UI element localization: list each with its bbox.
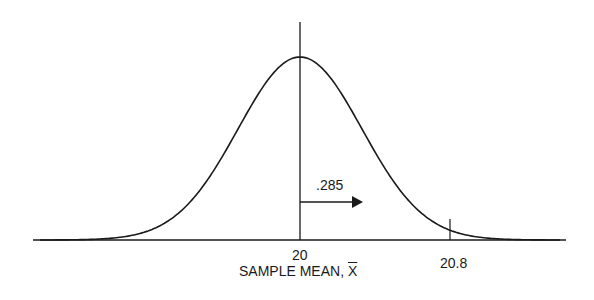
area-label: .285 — [316, 178, 343, 192]
tick-label-20-8: 20.8 — [440, 256, 467, 270]
x-axis-label-text: SAMPLE MEAN, — [239, 263, 348, 279]
mean-tick-label: 20 — [292, 248, 308, 262]
x-bar-symbol: X — [348, 263, 357, 279]
x-axis-label: SAMPLE MEAN, X — [239, 264, 357, 278]
arrow-right-icon — [352, 196, 363, 208]
